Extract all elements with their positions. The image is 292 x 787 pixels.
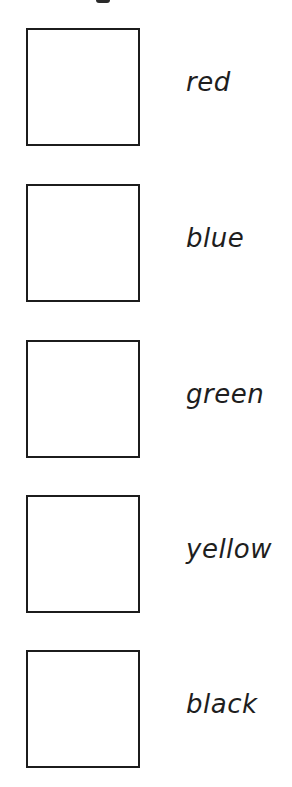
color-box-yellow[interactable]	[26, 495, 140, 613]
color-box-black[interactable]	[26, 650, 140, 768]
worksheet-row-yellow: yellow	[0, 495, 292, 613]
worksheet-row-green: green	[0, 340, 292, 458]
worksheet-row-red: red	[0, 28, 292, 146]
worksheet-row-black: black	[0, 650, 292, 768]
color-label: blue	[186, 222, 244, 254]
color-label: red	[186, 66, 231, 98]
color-box-green[interactable]	[26, 340, 140, 458]
color-box-red[interactable]	[26, 28, 140, 146]
color-box-blue[interactable]	[26, 184, 140, 302]
cropped-heading-fragment	[96, 0, 110, 3]
color-label: yellow	[186, 533, 272, 565]
color-label: black	[186, 688, 258, 720]
worksheet-row-blue: blue	[0, 184, 292, 302]
color-label: green	[186, 378, 264, 410]
